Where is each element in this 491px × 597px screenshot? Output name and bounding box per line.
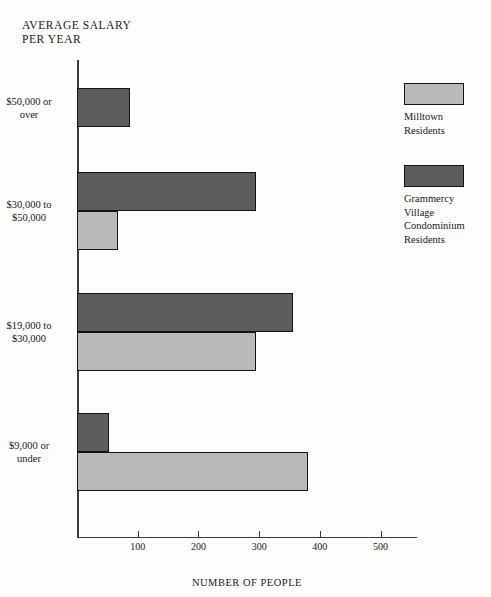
page-title: AVERAGE SALARY PER YEAR xyxy=(22,18,131,46)
bar xyxy=(77,332,256,371)
legend-label: Grammercy Village Condominium Residents xyxy=(404,192,484,246)
chart-page: AVERAGE SALARY PER YEAR 100200300400500 … xyxy=(0,0,491,597)
legend: Milltown ResidentsGrammercy Village Cond… xyxy=(404,83,484,274)
x-axis-tick-label: 100 xyxy=(130,541,145,552)
y-axis-category-label: $50,000 or over xyxy=(0,95,73,121)
bar xyxy=(77,172,256,211)
bar xyxy=(77,452,308,491)
x-axis-tick-label: 300 xyxy=(252,541,267,552)
x-axis-line xyxy=(77,537,417,539)
x-axis-tick xyxy=(381,531,382,537)
bar xyxy=(77,211,118,250)
legend-swatch xyxy=(404,165,464,187)
x-axis-tick xyxy=(320,531,321,537)
legend-swatch xyxy=(404,83,464,105)
y-axis-category-label: $9,000 or under xyxy=(0,439,73,465)
x-axis-tick xyxy=(138,531,139,537)
bar xyxy=(77,88,130,127)
x-axis-tick xyxy=(198,531,199,537)
x-axis-title: NUMBER OF PEOPLE xyxy=(77,577,417,588)
y-axis-category-label: $19,000 to $30,000 xyxy=(0,319,73,345)
y-axis-category-label: $30,000 to $50,000 xyxy=(0,198,73,224)
legend-item: Milltown Residents xyxy=(404,83,484,137)
legend-label: Milltown Residents xyxy=(404,110,484,137)
x-axis-tick xyxy=(259,531,260,537)
x-axis-tick-label: 400 xyxy=(312,541,327,552)
x-axis-tick-label: 200 xyxy=(191,541,206,552)
bar xyxy=(77,413,109,452)
legend-item: Grammercy Village Condominium Residents xyxy=(404,165,484,246)
plot-area: 100200300400500 NUMBER OF PEOPLE xyxy=(77,60,417,538)
x-axis-tick-label: 500 xyxy=(373,541,388,552)
bar xyxy=(77,293,293,332)
